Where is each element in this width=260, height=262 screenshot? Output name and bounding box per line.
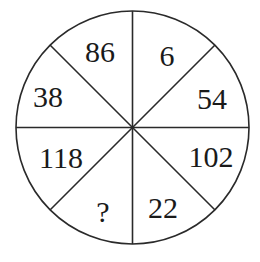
cell-top-left: 86	[85, 35, 115, 68]
cell-top-right: 6	[160, 39, 175, 72]
cell-bottom-right: 22	[148, 191, 178, 224]
cell-left-lower: 118	[39, 141, 83, 174]
cell-right-upper: 54	[197, 82, 227, 115]
cell-right-lower: 102	[189, 140, 234, 173]
cell-left-upper: 38	[33, 80, 63, 113]
cell-bottom-left-unknown: ?	[96, 195, 109, 228]
puzzle-diagram: 6 54 102 22 ? 118 38 86	[0, 0, 260, 262]
number-circle-puzzle: 6 54 102 22 ? 118 38 86	[0, 0, 260, 262]
